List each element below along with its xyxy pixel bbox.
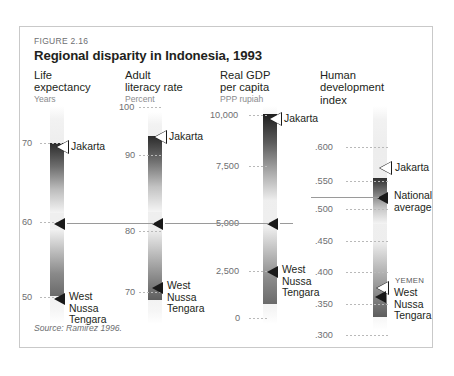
national-average-line-3	[280, 223, 293, 224]
tickline-gdp-10000	[249, 115, 267, 116]
bar-gradient	[148, 136, 162, 212]
marker-al-jakarta	[155, 131, 166, 143]
tick-hdi-600: .600	[315, 142, 333, 152]
tick-le-60: 60	[22, 217, 32, 227]
national-average-line-1	[67, 223, 154, 224]
marker-al-wnt	[152, 282, 163, 294]
column-header-life-expectancy: Lifeexpectancy	[34, 69, 91, 94]
marker-label-hdi-wnt: West Nussa Tengara	[394, 287, 432, 322]
national-average-line-2	[165, 223, 269, 224]
figure-number: FIGURE 2.16	[34, 36, 88, 46]
marker-label-national-average: National average	[394, 190, 432, 213]
column-unit-life-expectancy: Years	[34, 94, 56, 104]
tick-al-70: 70	[125, 287, 135, 297]
bar-gradient-lower	[50, 229, 64, 296]
source-note: Source: Ramirez 1996.	[34, 323, 122, 333]
marker-hdi-jakarta	[380, 162, 391, 174]
tick-al-100: 100	[119, 102, 134, 112]
marker-le-wnt	[54, 293, 65, 305]
scale-bar-real-gdp	[263, 106, 277, 324]
marker-label-hdi-jakarta: Jakarta	[395, 162, 429, 174]
column-header-hdi: Humandevelopmentindex	[320, 69, 384, 106]
marker-hdi-wnt	[375, 291, 386, 303]
bar-gradient-lower	[373, 241, 387, 317]
marker-label-al-wnt: West Nussa Tengara	[167, 280, 205, 315]
tick-hdi-550: .550	[315, 176, 333, 186]
national-average-line-4	[311, 197, 379, 198]
marker-le-jakarta	[57, 141, 68, 153]
tickline-hdi-500	[346, 209, 390, 210]
marker-gdp-wnt	[267, 266, 278, 278]
tickline-gdp-7500	[249, 166, 267, 167]
tick-le-70: 70	[22, 138, 32, 148]
tickline-al-100	[139, 107, 161, 108]
tick-hdi-500: .500	[315, 204, 333, 214]
tick-le-50: 50	[22, 292, 32, 302]
tick-hdi-300: .300	[315, 330, 333, 340]
tickline-hdi-550	[346, 181, 390, 182]
figure-title: Regional disparity in Indonesia, 1993	[34, 48, 262, 63]
scale-bar-life-expectancy	[50, 106, 64, 324]
tick-hdi-350: .350	[315, 299, 333, 309]
tickline-hdi-350	[346, 304, 390, 305]
tick-al-80: 80	[125, 226, 135, 236]
bar-gradient	[263, 114, 277, 200]
tickline-gdp-0	[249, 318, 267, 319]
marker-le-national-average	[54, 218, 65, 230]
tickline-gdp-2500	[249, 271, 267, 272]
tick-gdp-2500: 2,500	[216, 266, 239, 276]
marker-label-yemen: YEMEN	[395, 276, 424, 285]
column-header-adult-literacy: Adultliteracy rate	[125, 69, 183, 94]
tickline-hdi-400	[346, 272, 390, 273]
tick-gdp-7500: 7,500	[216, 161, 239, 171]
tick-hdi-400: .400	[315, 267, 333, 277]
tickline-hdi-300	[346, 335, 390, 336]
marker-label-al-jakarta: Jakarta	[169, 131, 203, 143]
tickline-hdi-450	[346, 241, 390, 242]
marker-gdp-jakarta	[270, 113, 281, 125]
marker-label-gdp-wnt: West Nussa Tengara	[282, 264, 320, 299]
marker-label-le-wnt: West Nussa Tengara	[69, 291, 107, 326]
tickline-al-90	[139, 155, 161, 156]
figure-panel: FIGURE 2.16 Regional disparity in Indone…	[19, 26, 433, 348]
marker-hdi-national-average	[377, 192, 388, 204]
tick-gdp-0: 0	[235, 313, 240, 323]
marker-label-gdp-jakarta: Jakarta	[284, 113, 318, 125]
tickline-al-80	[139, 231, 161, 232]
bar-gradient-lower	[263, 226, 277, 304]
marker-gdp-national-average	[267, 218, 278, 230]
tickline-hdi-600	[346, 147, 390, 148]
marker-label-le-jakarta: Jakarta	[71, 141, 105, 153]
column-header-real-gdp: Real GDPper capita	[220, 69, 270, 94]
marker-al-national-average	[152, 218, 163, 230]
tick-hdi-450: .450	[315, 236, 333, 246]
column-unit-real-gdp: PPP rupiah	[220, 94, 263, 104]
tick-al-90: 90	[125, 150, 135, 160]
tick-gdp-10000: 10,000	[210, 110, 238, 120]
